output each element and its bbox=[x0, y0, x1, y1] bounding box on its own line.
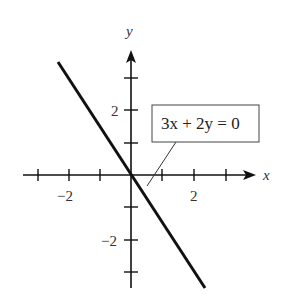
x-tick-label-neg2: −2 bbox=[57, 188, 73, 204]
graph: y x −2 2 2 −2 3x + 2y = 0 bbox=[0, 0, 281, 306]
x-tick-label-2: 2 bbox=[190, 188, 198, 204]
y-tick-label-neg2: −2 bbox=[101, 233, 117, 249]
callout-text: 3x + 2y = 0 bbox=[161, 114, 240, 133]
x-axis-label: x bbox=[262, 167, 270, 183]
y-tick-label-2: 2 bbox=[111, 103, 119, 119]
y-axis-label: y bbox=[124, 23, 133, 39]
